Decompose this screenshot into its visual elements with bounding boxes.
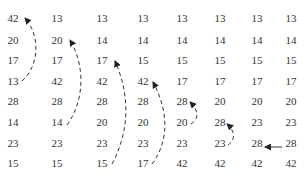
array-value: 42	[215, 157, 226, 169]
array-value: 15	[215, 54, 226, 66]
array-value: 28	[286, 137, 297, 149]
swap-arrow	[112, 61, 126, 164]
array-value: 13	[97, 12, 108, 24]
array-value: 15	[97, 157, 108, 169]
array-value: 14	[215, 34, 226, 46]
array-value: 14	[177, 34, 188, 46]
array-value: 13	[177, 12, 188, 24]
swap-arrow	[67, 40, 81, 125]
swap-arrow	[190, 102, 197, 124]
array-value: 28	[177, 95, 188, 107]
array-value: 42	[177, 157, 188, 169]
array-value: 42	[97, 75, 108, 87]
array-value: 42	[252, 157, 263, 169]
array-value: 28	[252, 137, 263, 149]
array-value: 13	[138, 12, 149, 24]
array-value: 20	[138, 116, 149, 128]
array-value: 20	[52, 34, 63, 46]
array-value: 13	[215, 12, 226, 24]
array-value: 14	[252, 34, 263, 46]
array-value: 23	[252, 116, 263, 128]
array-value: 17	[8, 54, 19, 66]
array-value: 14	[286, 34, 297, 46]
array-value: 23	[97, 137, 108, 149]
array-value: 15	[177, 54, 188, 66]
array-value: 20	[177, 116, 188, 128]
array-value: 28	[138, 95, 149, 107]
array-value: 42	[52, 75, 63, 87]
array-value: 23	[8, 137, 19, 149]
array-value: 17	[97, 54, 108, 66]
array-value: 17	[252, 75, 263, 87]
array-value: 17	[177, 75, 188, 87]
swap-arrow	[227, 124, 234, 145]
array-value: 14	[8, 116, 19, 128]
array-value: 17	[52, 54, 63, 66]
array-value: 15	[8, 157, 19, 169]
array-value: 23	[286, 116, 297, 128]
array-value: 28	[8, 95, 19, 107]
array-value: 28	[97, 95, 108, 107]
array-value: 15	[138, 54, 149, 66]
array-value: 14	[97, 34, 108, 46]
array-value: 17	[286, 75, 297, 87]
array-value: 23	[138, 137, 149, 149]
array-value: 42	[286, 157, 297, 169]
swap-arrow	[22, 18, 36, 81]
array-value: 14	[52, 116, 63, 128]
array-value: 15	[286, 54, 297, 66]
array-value: 13	[286, 12, 297, 24]
array-value: 13	[52, 12, 63, 24]
array-value: 20	[97, 116, 108, 128]
array-value: 20	[286, 95, 297, 107]
array-value: 23	[52, 137, 63, 149]
array-value: 42	[8, 12, 19, 24]
array-value: 20	[215, 95, 226, 107]
array-value: 15	[252, 54, 263, 66]
array-value: 20	[8, 34, 19, 46]
array-value: 23	[177, 137, 188, 149]
array-value: 17	[215, 75, 226, 87]
array-value: 13	[8, 75, 19, 87]
array-value: 23	[215, 137, 226, 149]
insertion-sort-diagram: 4220171328142315132017422814231513141742…	[0, 0, 306, 185]
array-value: 28	[215, 116, 226, 128]
swap-arrow	[152, 82, 165, 164]
array-value: 28	[52, 95, 63, 107]
array-value: 42	[138, 75, 149, 87]
array-value: 20	[252, 95, 263, 107]
array-value: 17	[138, 157, 149, 169]
array-value: 14	[138, 34, 149, 46]
array-value: 13	[252, 12, 263, 24]
array-value: 15	[52, 157, 63, 169]
